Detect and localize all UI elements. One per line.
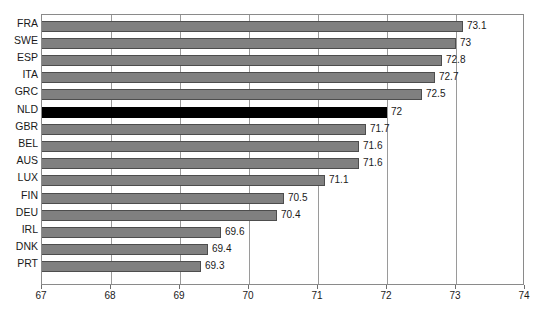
bar-value-label-bel: 71.6 (363, 139, 382, 152)
bar-fra[interactable] (42, 21, 463, 32)
bar-value-label-grc: 72.5 (426, 87, 445, 100)
category-label-irl: IRL (0, 223, 38, 236)
bar-ita[interactable] (42, 72, 435, 83)
category-label-wrap: FIN (0, 189, 38, 206)
bar-row: 73 (42, 35, 523, 52)
category-label-swe: SWE (0, 34, 38, 47)
category-label-fra: FRA (0, 17, 38, 30)
category-label-deu: DEU (0, 206, 38, 219)
bar-prt[interactable] (42, 261, 201, 272)
bar-row: 71.1 (42, 172, 523, 189)
category-label-wrap: BEL (0, 137, 38, 154)
category-label-wrap: GRC (0, 85, 38, 102)
bar-aus[interactable] (42, 158, 359, 169)
bar-deu[interactable] (42, 210, 277, 221)
category-label-wrap: SWE (0, 34, 38, 51)
bar-row: 72.5 (42, 86, 523, 103)
category-label-grc: GRC (0, 85, 38, 98)
category-label-aus: AUS (0, 154, 38, 167)
bar-dnk[interactable] (42, 244, 208, 255)
bar-chart: FRASWEESPITAGRCNLDGBRBELAUSLUXFINDEUIRLD… (0, 0, 541, 315)
bar-row: 69.3 (42, 258, 523, 275)
x-tick-label-73: 73 (440, 289, 470, 302)
category-label-fin: FIN (0, 189, 38, 202)
bar-row: 70.5 (42, 190, 523, 207)
category-label-wrap: NLD (0, 103, 38, 120)
bar-nld[interactable] (42, 107, 387, 118)
category-label-wrap: GBR (0, 120, 38, 137)
x-tick-label-68: 68 (95, 289, 125, 302)
bar-row: 71.7 (42, 121, 523, 138)
x-tick-label-72: 72 (371, 289, 401, 302)
bar-bel[interactable] (42, 141, 359, 152)
bar-irl[interactable] (42, 227, 221, 238)
x-tick-label-69: 69 (164, 289, 194, 302)
bar-lux[interactable] (42, 175, 325, 186)
bar-value-label-ita: 72.7 (439, 70, 458, 83)
category-label-wrap: IRL (0, 223, 38, 240)
bar-esp[interactable] (42, 55, 442, 66)
category-label-lux: LUX (0, 171, 38, 184)
bar-row: 71.6 (42, 155, 523, 172)
bar-value-label-deu: 70.4 (281, 208, 300, 221)
category-label-wrap: DEU (0, 206, 38, 223)
category-label-wrap: DNK (0, 240, 38, 257)
bar-value-label-irl: 69.6 (225, 225, 244, 238)
category-label-wrap: ITA (0, 68, 38, 85)
bar-row: 71.6 (42, 138, 523, 155)
bar-value-label-fra: 73.1 (467, 19, 486, 32)
bar-row: 69.4 (42, 241, 523, 258)
bar-value-label-fin: 70.5 (288, 191, 307, 204)
x-tick-label-74: 74 (509, 289, 539, 302)
bar-value-label-prt: 69.3 (205, 259, 224, 272)
bar-row: 69.6 (42, 224, 523, 241)
category-label-bel: BEL (0, 137, 38, 150)
category-label-nld: NLD (0, 103, 38, 116)
category-label-wrap: LUX (0, 171, 38, 188)
bar-value-label-dnk: 69.4 (212, 242, 231, 255)
x-tick-label-71: 71 (302, 289, 332, 302)
bar-grc[interactable] (42, 89, 422, 100)
x-tick-label-70: 70 (233, 289, 263, 302)
bar-row: 73.1 (42, 18, 523, 35)
category-label-wrap: PRT (0, 257, 38, 274)
bar-row: 72.8 (42, 52, 523, 69)
bar-value-label-gbr: 71.7 (370, 122, 389, 135)
bar-fin[interactable] (42, 193, 284, 204)
category-label-prt: PRT (0, 257, 38, 270)
bar-row: 70.4 (42, 207, 523, 224)
bar-value-label-aus: 71.6 (363, 156, 382, 169)
category-label-gbr: GBR (0, 120, 38, 133)
category-label-esp: ESP (0, 51, 38, 64)
bar-row: 72.7 (42, 69, 523, 86)
x-tick-label-67: 67 (26, 289, 56, 302)
bar-value-label-nld: 72 (391, 105, 402, 118)
bar-value-label-swe: 73 (460, 36, 471, 49)
bar-swe[interactable] (42, 38, 456, 49)
category-label-wrap: AUS (0, 154, 38, 171)
bar-gbr[interactable] (42, 124, 366, 135)
bar-value-label-esp: 72.8 (446, 53, 465, 66)
category-label-wrap: FRA (0, 17, 38, 34)
plot-area: 73.17372.872.772.57271.771.671.671.170.5… (41, 14, 524, 285)
category-label-ita: ITA (0, 68, 38, 81)
bar-row: 72 (42, 104, 523, 121)
bar-value-label-lux: 71.1 (329, 173, 348, 186)
category-label-dnk: DNK (0, 240, 38, 253)
category-label-wrap: ESP (0, 51, 38, 68)
